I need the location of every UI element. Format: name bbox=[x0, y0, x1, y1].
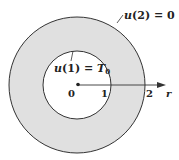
tick-label-2: 2 bbox=[146, 88, 153, 99]
outer-label-leader-line bbox=[117, 15, 123, 23]
tick-label-1: 1 bbox=[101, 88, 108, 99]
annulus-diagram: u(2) = 0 u(1) = T0 0 1 2 r bbox=[0, 0, 179, 160]
r-axis-arrowhead-icon bbox=[157, 82, 166, 88]
outer-boundary-label: u(2) = 0 bbox=[124, 9, 175, 22]
inner-boundary-label: u(1) = T0 bbox=[54, 62, 110, 76]
origin-dot bbox=[76, 83, 80, 87]
r-axis-label: r bbox=[166, 88, 172, 99]
tick-label-0: 0 bbox=[68, 88, 75, 99]
